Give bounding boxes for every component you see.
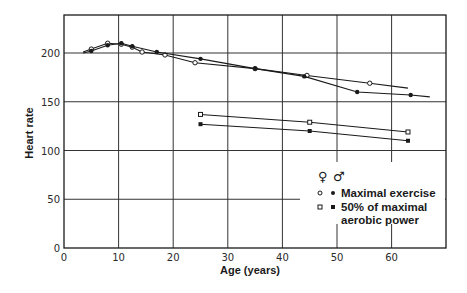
- heart-rate-chart: 0102030405060 050100150200 ♀ ♂ Maximal e…: [0, 0, 467, 293]
- filled-circle-marker: [155, 50, 159, 54]
- y-tick-label: 0: [54, 243, 60, 254]
- legend-filled-square-icon: [331, 205, 335, 209]
- filled-circle-marker: [355, 90, 359, 94]
- x-tick-label: 0: [61, 252, 67, 263]
- legend-label-maximal-exercise: Maximal exercise: [341, 187, 436, 199]
- filled-circle-marker: [130, 44, 134, 48]
- y-tick-label: 100: [41, 146, 60, 157]
- legend-filled-circle-icon: [331, 191, 335, 195]
- open-circle-marker: [368, 81, 372, 85]
- series-line: [201, 114, 408, 132]
- x-tick-label: 60: [385, 252, 398, 263]
- y-axis-ticks: 050100150200: [41, 48, 60, 254]
- filled-circle-marker: [105, 43, 109, 47]
- x-tick-label: 40: [276, 252, 289, 263]
- filled-square-marker: [308, 129, 312, 133]
- x-axis-ticks: 0102030405060: [61, 252, 398, 263]
- series-line: [83, 43, 408, 88]
- female-symbol-icon: ♀: [318, 169, 328, 184]
- legend-label-50pct-line2: aerobic power: [341, 214, 419, 226]
- filled-circle-marker: [198, 57, 202, 61]
- x-tick-label: 30: [221, 252, 234, 263]
- y-tick-label: 150: [41, 97, 60, 108]
- legend: ♀ ♂ Maximal exercise 50% of maximal aero…: [300, 162, 445, 226]
- open-square-marker: [308, 120, 312, 124]
- filled-square-marker: [406, 139, 410, 143]
- filled-circle-marker: [253, 66, 257, 70]
- open-circle-marker: [140, 50, 144, 54]
- filled-circle-marker: [89, 49, 93, 53]
- open-square-marker: [199, 112, 203, 116]
- series-line: [201, 124, 408, 141]
- x-tick-label: 50: [331, 252, 344, 263]
- legend-label-50pct-line1: 50% of maximal: [341, 201, 427, 213]
- data-series: [83, 41, 430, 143]
- male-symbol-icon: ♂: [333, 169, 345, 184]
- open-square-marker: [406, 130, 410, 134]
- x-axis-label: Age (years): [220, 264, 280, 276]
- filled-circle-marker: [409, 93, 413, 97]
- legend-open-circle-icon: [318, 191, 322, 195]
- y-tick-label: 50: [47, 194, 60, 205]
- y-axis-label: Heart rate: [23, 107, 35, 158]
- y-tick-label: 200: [41, 48, 60, 59]
- legend-open-square-icon: [318, 205, 322, 209]
- filled-circle-marker: [119, 41, 123, 45]
- open-circle-marker: [193, 61, 197, 65]
- filled-circle-marker: [302, 74, 306, 78]
- x-tick-label: 10: [112, 252, 125, 263]
- x-tick-label: 20: [167, 252, 180, 263]
- filled-square-marker: [199, 122, 203, 126]
